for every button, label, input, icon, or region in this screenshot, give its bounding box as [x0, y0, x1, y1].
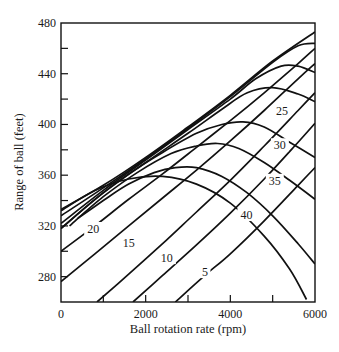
plot-curves	[61, 32, 315, 302]
x-tick-label: 6000	[303, 307, 327, 321]
x-tick-label: 2000	[134, 307, 158, 321]
curve-label-20: 20	[87, 222, 99, 236]
y-tick-label: 400	[38, 117, 56, 131]
plot-frame	[61, 23, 315, 302]
curve-line-15	[61, 64, 315, 282]
curve-label-40: 40	[240, 208, 252, 222]
curve-label-10: 10	[161, 251, 173, 265]
range-vs-rotation-chart: 0200040006000280320360400440480 20151052…	[0, 0, 339, 352]
curve-label-15: 15	[123, 236, 135, 250]
y-tick-label: 280	[38, 270, 56, 284]
y-tick-label: 320	[38, 219, 56, 233]
curve-label-5: 5	[202, 265, 208, 279]
curve-label-30: 30	[274, 138, 286, 152]
x-tick-label: 4000	[218, 307, 242, 321]
y-axis-title: Range of ball (feet)	[12, 113, 26, 211]
curve-label-35: 35	[269, 174, 281, 188]
y-tick-label: 440	[38, 67, 56, 81]
x-axis-title: Ball rotation rate (rpm)	[130, 322, 246, 336]
x-tick-label: 0	[58, 307, 64, 321]
curve-line-unlabeled	[175, 168, 315, 302]
curve-label-25: 25	[276, 104, 288, 118]
y-tick-label: 480	[38, 16, 56, 30]
y-tick-label: 360	[38, 168, 56, 182]
axis-tick-labels: 0200040006000280320360400440480	[38, 16, 327, 321]
